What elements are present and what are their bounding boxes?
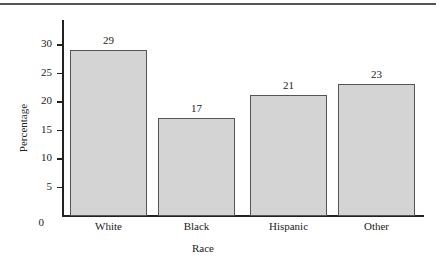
y-tick-label: 30 <box>28 37 52 49</box>
y-tick-label: 15 <box>28 123 52 135</box>
category-label: Hispanic <box>249 220 329 232</box>
y-tick <box>57 101 63 103</box>
value-label: 21 <box>259 79 319 91</box>
y-tick <box>57 130 63 132</box>
top-rule <box>0 3 436 5</box>
bar-other <box>338 84 415 216</box>
category-label: Black <box>157 220 237 232</box>
value-label: 17 <box>167 102 227 114</box>
y-tick-label: 20 <box>28 94 52 106</box>
y-tick-label: 5 <box>28 180 52 192</box>
y-tick <box>57 44 63 46</box>
bar-black <box>158 118 235 216</box>
y-tick-label: 10 <box>28 151 52 163</box>
y-tick <box>57 73 63 75</box>
bar-white <box>70 50 147 216</box>
category-label: Other <box>337 220 417 232</box>
y-tick-label: 25 <box>28 66 52 78</box>
value-label: 29 <box>79 34 139 46</box>
x-axis-title: Race <box>192 242 214 254</box>
y-tick <box>57 158 63 160</box>
category-label: White <box>69 220 149 232</box>
y-tick-label: 0 <box>20 216 44 228</box>
bar-hispanic <box>250 95 327 216</box>
value-label: 23 <box>347 68 407 80</box>
y-tick <box>57 187 63 189</box>
